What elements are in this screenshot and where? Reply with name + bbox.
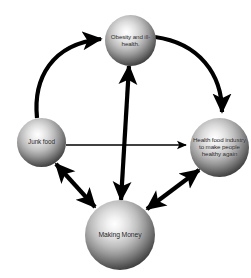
edge-makingmoney-healthfood [147,170,199,209]
edge-junkfood-to-obesity [36,39,101,118]
node-obesity-label: Obesity and ill-health. [106,34,155,47]
node-making-money-label: Making Money [86,231,153,238]
node-health-food-industry[interactable]: Health food industry to make people heal… [190,118,249,177]
node-health-food-industry-label: Health food industry to make people heal… [191,137,248,157]
node-junk-food[interactable]: Junk food [17,118,66,167]
edge-junkfood-makingmoney [56,164,95,207]
diagram-canvas: Obesity and ill-health. Junk food Health… [0,0,251,278]
node-making-money[interactable]: Making Money [85,200,155,270]
node-obesity-and-ill-health[interactable]: Obesity and ill-health. [105,15,156,66]
edge-obesity-makingmoney [121,66,129,200]
edge-obesity-to-healthfood [155,37,222,112]
node-junk-food-label: Junk food [18,139,65,146]
